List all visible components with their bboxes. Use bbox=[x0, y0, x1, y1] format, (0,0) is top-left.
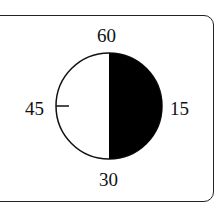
label-30: 30 bbox=[99, 170, 118, 189]
label-60: 60 bbox=[97, 26, 116, 45]
label-15: 15 bbox=[170, 99, 189, 118]
label-45: 45 bbox=[25, 99, 44, 118]
shaded-half bbox=[109, 53, 162, 159]
